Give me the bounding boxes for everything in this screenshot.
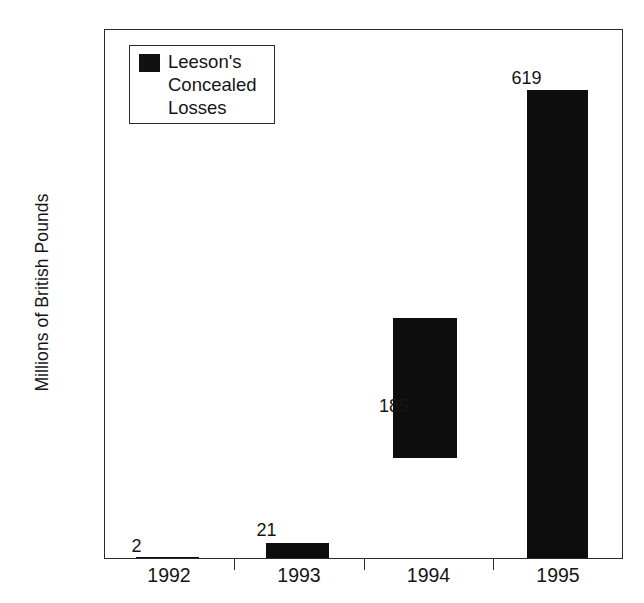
x-tick-label-1994: 1994	[364, 566, 493, 586]
bar-value-label-1992: 2	[105, 537, 168, 555]
x-tick-label-1993: 1993	[234, 566, 364, 586]
bar-1992[interactable]	[136, 557, 199, 559]
legend-label: Leeson's Concealed Losses	[168, 50, 256, 119]
bar-value-label-1993: 21	[235, 521, 298, 539]
x-tick-label-1995: 1995	[493, 566, 623, 586]
bar-chart: Millions of British Pounds 0 100 200 300…	[0, 0, 644, 603]
bar-value-label-1994: 185	[362, 397, 426, 415]
bar-value-label-1995: 619	[496, 69, 557, 87]
legend-swatch-icon	[139, 54, 160, 72]
y-axis-title: Millions of British Pounds	[32, 83, 53, 503]
legend: Leeson's Concealed Losses	[129, 45, 275, 124]
bar-1993[interactable]	[266, 543, 329, 559]
plot-area: Leeson's Concealed Losses	[104, 29, 623, 559]
x-tick-label-1992: 1992	[104, 566, 234, 586]
bar-1995[interactable]	[527, 90, 588, 559]
bar-1994[interactable]	[393, 318, 457, 458]
